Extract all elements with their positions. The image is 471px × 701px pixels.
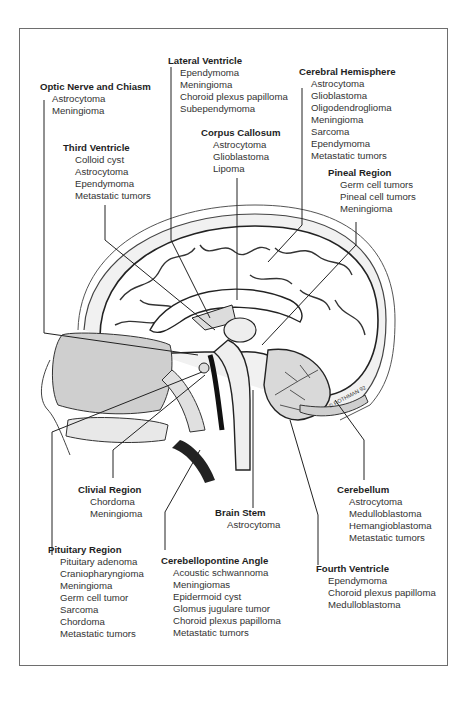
region-title: Cerebral Hemisphere [299,66,396,78]
tumor-item: Choroid plexus papilloma [180,91,288,103]
tumor-item: Astrocytoma [213,139,280,151]
region-fourth-ventricle: Fourth Ventricle Ependymoma Choroid plex… [316,563,436,611]
tumor-item: Meningioma [340,203,416,215]
region-title: Brain Stem [215,507,280,519]
region-title: Pineal Region [328,167,416,179]
tumor-item: Germ cell tumor [60,592,144,604]
tumor-item: Ependymoma [180,67,288,79]
tumor-item: Astrocytoma [227,519,280,531]
tumor-item: Astrocytoma [311,78,396,90]
region-title: Cerebellopontine Angle [161,555,281,567]
tumor-item: Sarcoma [311,126,396,138]
region-cerebral-hemisphere: Cerebral Hemisphere Astrocytoma Glioblas… [299,66,396,162]
tumor-item: Glomus jugulare tumor [173,603,281,615]
region-brain-stem: Brain Stem Astrocytoma [215,507,280,531]
tumor-item: Sarcoma [60,604,144,616]
region-title: Corpus Callosum [201,127,280,139]
tumor-item: Choroid plexus papilloma [328,587,436,599]
tumor-item: Craniopharyngioma [60,568,144,580]
tumor-item: Medulloblastoma [328,599,436,611]
tumor-item: Metastatic tumors [75,190,151,202]
tumor-item: Meningioma [90,508,142,520]
tumor-item: Meningioma [311,114,396,126]
region-title: Lateral Ventricle [168,55,288,67]
region-title: Cerebellum [337,484,432,496]
region-optic-nerve-chiasm: Optic Nerve and Chiasm Astrocytoma Menin… [40,81,151,117]
tumor-item: Metastatic tumors [60,628,144,640]
tumor-item: Subependymoma [180,103,288,115]
tumor-item: Colloid cyst [75,154,151,166]
tumor-item: Meningioma [52,105,151,117]
tumor-item: Meningioma [60,580,144,592]
tumor-item: Pituitary adenoma [60,556,144,568]
tumor-item: Glioblastoma [213,151,280,163]
tumor-item: Metastatic tumors [311,150,396,162]
region-cerebellum: Cerebellum Astrocytoma Medulloblastoma H… [337,484,432,544]
tumor-item: Astrocytoma [52,93,151,105]
tumor-item: Epidermoid cyst [173,591,281,603]
region-title: Pituitary Region [48,544,144,556]
tumor-item: Ependymoma [328,575,436,587]
region-title: Clivial Region [78,484,142,496]
region-lateral-ventricle: Lateral Ventricle Ependymoma Meningioma … [168,55,288,115]
tumor-item: Ependymoma [75,178,151,190]
tumor-item: Meningioma [180,79,288,91]
tumor-item: Metastatic tumors [173,627,281,639]
tumor-item: Chordoma [60,616,144,628]
tumor-item: Ependymoma [311,138,396,150]
region-title: Third Ventricle [63,142,151,154]
region-clivial: Clivial Region Chordoma Meningioma [78,484,142,520]
tumor-item: Hemangioblastoma [349,520,432,532]
tumor-item: Chordoma [90,496,142,508]
tumor-item: Pineal cell tumors [340,191,416,203]
region-title: Fourth Ventricle [316,563,436,575]
tumor-item: Glioblastoma [311,90,396,102]
region-title: Optic Nerve and Chiasm [40,81,151,93]
tumor-item: Medulloblastoma [349,508,432,520]
tumor-item: Acoustic schwannoma [173,567,281,579]
tumor-item: Germ cell tumors [340,179,416,191]
tumor-item: Lipoma [213,163,280,175]
region-pituitary: Pituitary Region Pituitary adenoma Crani… [48,544,144,640]
tumor-item: Meningiomas [173,579,281,591]
tumor-item: Metastatic tumors [349,532,432,544]
region-third-ventricle: Third Ventricle Colloid cyst Astrocytoma… [63,142,151,202]
tumor-item: Oligodendroglioma [311,102,396,114]
region-corpus-callosum: Corpus Callosum Astrocytoma Glioblastoma… [201,127,280,175]
tumor-item: Choroid plexus papilloma [173,615,281,627]
tumor-item: Astrocytoma [75,166,151,178]
tumor-item: Astrocytoma [349,496,432,508]
region-pineal: Pineal Region Germ cell tumors Pineal ce… [328,167,416,215]
region-cerebellopontine-angle: Cerebellopontine Angle Acoustic schwanno… [161,555,281,639]
